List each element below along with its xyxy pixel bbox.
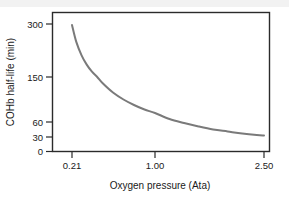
plot-frame (53, 13, 270, 152)
y-tick-label-300: 300 (27, 19, 43, 30)
x-axis-ticks (72, 152, 264, 159)
y-tick-label-150: 150 (27, 72, 43, 83)
chart-figure: 300 150 60 30 0 0.21 1.00 2.50 Oxygen pr… (0, 0, 289, 197)
y-tick-label-30: 30 (32, 132, 43, 143)
x-tick-label-100: 1.00 (146, 160, 165, 171)
y-axis-title: COHb half-life (min) (5, 38, 16, 126)
chart-plot-area: 300 150 60 30 0 0.21 1.00 2.50 Oxygen pr… (0, 0, 289, 197)
x-tick-label-021: 0.21 (63, 160, 82, 171)
y-tick-label-0: 0 (38, 146, 43, 157)
y-axis-ticks (46, 24, 53, 152)
x-tick-label-250: 2.50 (255, 160, 274, 171)
x-axis-title: Oxygen pressure (Ata) (110, 180, 211, 191)
y-tick-label-60: 60 (32, 117, 43, 128)
